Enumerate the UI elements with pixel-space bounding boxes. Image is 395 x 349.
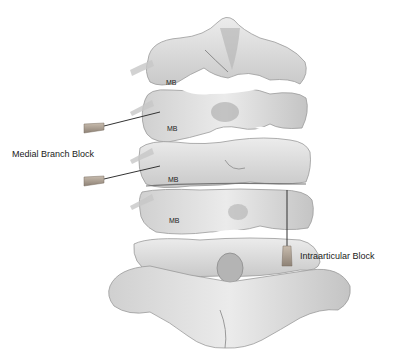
label-intraarticular-block: Intraarticular Block <box>300 251 375 261</box>
vertebra-c2 <box>146 17 306 85</box>
cervical-spine-diagram: MB MB MB MB Medial Branch Block Intraart… <box>0 0 395 349</box>
vertebra-c4 <box>139 138 311 188</box>
mb-marker-4: MB <box>169 217 180 224</box>
label-medial-branch-block: Medial Branch Block <box>12 149 94 159</box>
mb-marker-1: MB <box>166 79 177 86</box>
vertebrae-illustration <box>0 0 395 349</box>
mb-marker-2: MB <box>167 125 178 132</box>
mb-marker-3: MB <box>168 176 179 183</box>
